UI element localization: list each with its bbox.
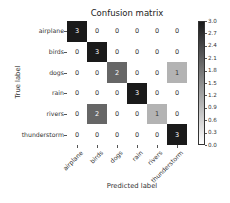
colorbar-tick-label: 1.5	[208, 80, 217, 86]
colorbar-tick-label: 2.4	[208, 42, 217, 48]
colorbar-tick-label: 0.9	[208, 104, 217, 110]
colorbar	[198, 21, 205, 145]
x-tick-mark	[117, 145, 118, 148]
colorbar-tick-mark	[205, 133, 207, 134]
y-axis-label: True label	[14, 62, 22, 102]
matrix-cell: 0	[147, 21, 167, 42]
matrix-cell: 0	[107, 83, 127, 104]
x-tick-mark	[77, 145, 78, 148]
matrix-cell: 0	[127, 124, 147, 145]
matrix-cell: 3	[127, 83, 147, 104]
matrix-cell: 0	[67, 62, 87, 83]
colorbar-tick-label: 1.2	[208, 92, 217, 98]
matrix-cell: 0	[147, 83, 167, 104]
x-tick-label: rivers	[146, 149, 163, 166]
matrix-cell: 3	[67, 21, 87, 42]
matrix-cell: 0	[67, 83, 87, 104]
colorbar-tick-label: 2.1	[208, 55, 217, 61]
matrix-cell: 0	[107, 124, 127, 145]
matrix-cell: 0	[167, 83, 187, 104]
y-tick-label: birds	[49, 48, 64, 55]
y-tick-label: rivers	[47, 110, 65, 117]
colorbar-tick-label: 3.0	[208, 18, 217, 24]
colorbar-tick-mark	[205, 33, 207, 34]
x-tick-mark	[97, 145, 98, 148]
colorbar-tick-mark	[205, 58, 207, 59]
colorbar-tick-mark	[205, 21, 207, 22]
matrix-cell: 0	[147, 124, 167, 145]
matrix-cell: 0	[127, 104, 147, 125]
matrix-cell: 0	[167, 104, 187, 125]
matrix-cell: 0	[67, 104, 87, 125]
y-tick-mark	[64, 31, 67, 32]
matrix-cell: 0	[87, 62, 107, 83]
matrix-cell: 0	[127, 42, 147, 63]
matrix-cell: 1	[167, 62, 187, 83]
colorbar-tick-label: 0.3	[208, 129, 217, 135]
colorbar-tick-mark	[205, 46, 207, 47]
colorbar-tick-label: 0.0	[208, 142, 217, 148]
matrix-cell: 0	[147, 42, 167, 63]
matrix-cell: 0	[87, 124, 107, 145]
y-tick-mark	[64, 114, 67, 115]
chart-title: Confusion matrix	[67, 8, 187, 18]
y-tick-mark	[64, 52, 67, 53]
matrix-cell: 0	[127, 21, 147, 42]
matrix-cell: 1	[147, 104, 167, 125]
colorbar-tick-label: 2.7	[208, 30, 217, 36]
colorbar-tick-mark	[205, 95, 207, 96]
matrix-cell: 0	[67, 124, 87, 145]
colorbar-tick-mark	[205, 108, 207, 109]
colorbar-tick-label: 1.8	[208, 67, 217, 73]
x-tick-label: airplane	[61, 149, 84, 172]
matrix-cell: 0	[67, 42, 87, 63]
y-tick-label: airplane	[39, 27, 64, 34]
x-axis-label: Predicted label	[97, 182, 167, 190]
colorbar-tick-mark	[205, 145, 207, 146]
y-tick-mark	[64, 93, 67, 94]
x-tick-mark	[177, 145, 178, 148]
matrix-cell: 0	[147, 62, 167, 83]
matrix-cell: 3	[87, 42, 107, 63]
x-tick-label: dogs	[108, 149, 123, 164]
y-tick-label: thunderstorm	[22, 131, 64, 138]
matrix-cell: 2	[87, 104, 107, 125]
colorbar-tick-mark	[205, 120, 207, 121]
matrix-cell: 0	[127, 62, 147, 83]
matrix-cell: 2	[107, 62, 127, 83]
x-tick-mark	[137, 145, 138, 148]
y-tick-mark	[64, 73, 67, 74]
matrix-cell: 3	[167, 124, 187, 145]
x-tick-label: rain	[131, 149, 144, 162]
colorbar-tick-mark	[205, 83, 207, 84]
y-tick-mark	[64, 135, 67, 136]
matrix-cell: 0	[107, 21, 127, 42]
x-tick-label: birds	[88, 149, 104, 165]
colorbar-tick-label: 0.6	[208, 117, 217, 123]
y-tick-label: rain	[52, 89, 64, 96]
matrix-cell: 0	[87, 83, 107, 104]
y-tick-label: dogs	[49, 69, 64, 76]
matrix-cell: 0	[107, 42, 127, 63]
confusion-matrix: 300000030000002001000300020010000003	[67, 21, 187, 145]
matrix-cell: 0	[87, 21, 107, 42]
matrix-cell: 0	[167, 21, 187, 42]
matrix-cell: 0	[167, 42, 187, 63]
x-tick-mark	[157, 145, 158, 148]
matrix-cell: 0	[107, 104, 127, 125]
colorbar-tick-mark	[205, 71, 207, 72]
